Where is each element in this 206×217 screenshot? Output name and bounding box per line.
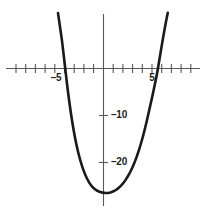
coordinate-plane xyxy=(0,0,206,217)
x-tick-label-pos5: 5 xyxy=(142,73,162,83)
y-tick-label-neg20: –20 xyxy=(111,157,127,167)
graph-figure: –5 5 –10 –20 xyxy=(0,0,206,217)
x-tick-label-neg5: –5 xyxy=(45,73,67,83)
y-tick-label-neg10: –10 xyxy=(111,110,127,120)
